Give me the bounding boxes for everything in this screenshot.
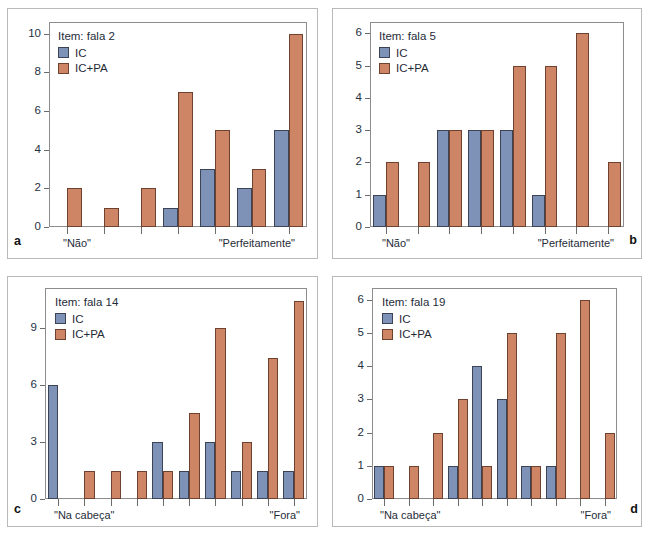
bar-icpa <box>189 413 199 499</box>
panel-d-xtick <box>409 499 410 506</box>
bar-ic <box>179 471 189 500</box>
bar-icpa <box>386 162 399 227</box>
bar-icpa <box>268 358 278 499</box>
bar-icpa <box>215 328 225 499</box>
panel-b-legend-title: Item: fala 5 <box>379 30 436 43</box>
panel-b-xtick <box>545 227 546 234</box>
bar-ic <box>500 130 513 227</box>
bar-icpa <box>449 130 462 227</box>
bar-icpa <box>481 130 494 227</box>
bar-icpa <box>409 466 419 499</box>
panel-c-x-left-label: "Na cabeça" <box>54 510 114 521</box>
bar-ic <box>274 130 289 227</box>
legend-swatch-ic-icon <box>58 47 69 58</box>
panel-c-xtick <box>58 499 59 506</box>
panel-c-xtick <box>137 499 138 506</box>
panel-c-x-right-label: "Fora" <box>270 510 300 521</box>
panel-d-y-axis: 0123456 <box>366 288 372 499</box>
panel-d-xtick <box>531 499 532 506</box>
panel-b-ytick-label: 4 <box>356 92 362 104</box>
bar-icpa <box>384 466 394 499</box>
legend-swatch-icpa-icon <box>55 329 66 340</box>
panel-b-x-right-label: "Perfeitamente" <box>538 238 614 249</box>
panel-d-ytick <box>367 433 372 434</box>
bar-icpa <box>215 130 230 227</box>
bar-icpa <box>294 301 304 499</box>
bar-icpa <box>67 188 82 227</box>
panel-a-ytick-label: 2 <box>35 183 41 195</box>
panel-d-xtick <box>458 499 459 506</box>
panel-c-ytick-label: 3 <box>31 436 37 448</box>
panel-b-xtick <box>418 227 419 234</box>
panel-b: 0123456 "Não""Perfeitamente" Item: fala … <box>326 0 651 268</box>
panel-d-ytick-label: 1 <box>358 460 364 472</box>
panel-a-legend-row-ic: IC <box>58 47 115 60</box>
bar-ic <box>472 366 482 499</box>
panel-a-ytick <box>44 72 49 73</box>
panel-d-ytick-label: 0 <box>358 493 364 505</box>
panel-c-ytick <box>40 385 45 386</box>
panel-d-ytick <box>367 366 372 367</box>
bar-ic <box>497 399 507 499</box>
bar-ic <box>48 385 58 499</box>
bar-ic <box>257 471 267 500</box>
panel-b-ytick <box>365 195 370 196</box>
panel-d-ytick <box>367 399 372 400</box>
panel-b-x-left-label: "Não" <box>382 238 410 249</box>
panel-b-legend: Item: fala 5 IC IC+PA <box>379 30 436 75</box>
panel-d-ytick-label: 3 <box>358 394 364 406</box>
bar-ic <box>163 208 178 227</box>
panel-c-xtick <box>84 499 85 506</box>
bar-icpa <box>608 162 621 227</box>
panel-d-xtick <box>482 499 483 506</box>
panel-a-xtick <box>252 227 253 234</box>
panel-b-ytick-label: 5 <box>356 60 362 72</box>
panel-c-ytick-label: 0 <box>31 493 37 505</box>
panel-c-ytick-label: 6 <box>31 379 37 391</box>
bar-ic <box>231 471 241 500</box>
panel-d-legend-row-icpa: IC+PA <box>382 328 445 341</box>
panel-b-ytick-label: 0 <box>356 221 362 233</box>
panel-d-ytick-label: 6 <box>358 294 364 306</box>
legend-swatch-icpa-icon <box>58 63 69 74</box>
bar-icpa <box>289 34 304 227</box>
bar-icpa <box>252 169 267 227</box>
panel-d-ytick <box>367 466 372 467</box>
panel-a-legend-label-icpa: IC+PA <box>75 62 108 75</box>
panel-d-xtick <box>556 499 557 506</box>
panel-d: 0123456 "Na cabeça""Fora" Item: fala 19 … <box>326 268 651 537</box>
bar-icpa <box>482 466 492 499</box>
panel-b-ytick <box>365 66 370 67</box>
panel-d-xtick <box>580 499 581 506</box>
legend-swatch-ic-icon <box>55 313 66 324</box>
panel-a-ytick <box>44 188 49 189</box>
panel-a-x-left-label: "Não" <box>63 238 91 249</box>
panel-a-xtick <box>178 227 179 234</box>
panel-c-xtick <box>294 499 295 506</box>
panel-d-legend-label-icpa: IC+PA <box>399 328 432 341</box>
panel-c-ytick <box>40 328 45 329</box>
panel-c-xtick <box>215 499 216 506</box>
panel-b-legend-row-ic: IC <box>379 47 436 60</box>
panel-b-ytick-label: 2 <box>356 157 362 169</box>
panel-a-xtick <box>67 227 68 234</box>
panel-c-legend: Item: fala 14 IC IC+PA <box>55 296 118 341</box>
panel-b-ytick <box>365 33 370 34</box>
panel-b-ytick-label: 1 <box>356 189 362 201</box>
panel-b-xtick <box>608 227 609 234</box>
bar-ic <box>448 466 458 499</box>
bar-icpa <box>531 466 541 499</box>
bar-ic <box>205 442 215 499</box>
panel-b-xtick <box>386 227 387 234</box>
bar-icpa <box>178 92 193 227</box>
bar-icpa <box>137 471 147 500</box>
panel-b-xtick <box>481 227 482 234</box>
panel-d-xtick <box>384 499 385 506</box>
bar-ic <box>237 188 252 227</box>
bar-icpa <box>433 433 443 499</box>
panel-a-ytick-label: 6 <box>35 105 41 117</box>
legend-swatch-icpa-icon <box>382 329 393 340</box>
bar-ic <box>437 130 450 227</box>
panel-a-legend-title: Item: fala 2 <box>58 30 115 43</box>
panel-a: 0246810 "Não""Perfeitamente" Item: fala … <box>0 0 326 268</box>
